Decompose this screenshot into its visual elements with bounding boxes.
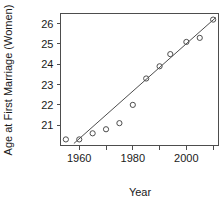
y-tick-label: 21 [41,119,53,131]
data-point-marker [103,127,108,132]
x-tick-label: 1980 [121,152,145,164]
x-tick-label: 2000 [174,152,198,164]
data-point-marker [117,121,122,126]
y-tick-label: 26 [41,18,53,30]
data-point-marker [90,131,95,136]
y-tick-label: 25 [41,38,53,50]
data-point-marker [63,137,68,142]
plot-frame [61,14,219,146]
data-point-marker [144,76,149,81]
data-point-marker [77,137,82,142]
y-tick-label: 23 [41,79,53,91]
x-tick-label: 1960 [67,152,91,164]
y-tick-label: 24 [41,58,53,70]
data-point-marker [130,102,135,107]
data-point-marker [168,52,173,57]
scatter-plot: 212223242526196019802000 Year Age at Fir… [0,0,223,207]
y-axis-title: Age at First Marriage (Women) [2,5,14,156]
ticks-group [57,24,214,150]
data-point-marker [197,35,202,40]
data-points-group [63,17,215,142]
y-tick-label: 22 [41,99,53,111]
x-axis-title: Year [129,186,152,198]
chart-figure: 212223242526196019802000 Year Age at Fir… [0,0,223,207]
axes-group [61,14,219,146]
